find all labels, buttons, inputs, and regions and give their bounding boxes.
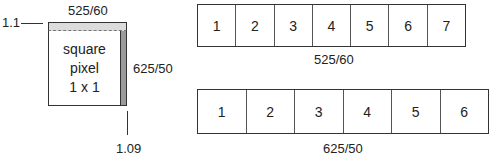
right-extension-band — [121, 31, 127, 106]
cell-6: 6 — [441, 90, 489, 133]
cell-1: 1 — [198, 90, 247, 133]
cell-3: 3 — [275, 5, 313, 46]
text-square: square — [48, 40, 121, 59]
cell-2: 2 — [236, 5, 274, 46]
cell-3: 3 — [295, 90, 344, 133]
cell-7: 7 — [428, 5, 465, 46]
text-pixel: pixel — [48, 59, 121, 78]
row-625-50-label: 625/50 — [323, 141, 363, 156]
cell-4: 4 — [313, 5, 351, 46]
label-625-50-right: 625/50 — [133, 61, 173, 76]
cell-6: 6 — [389, 5, 427, 46]
leader-line-bottom — [127, 111, 128, 135]
cell-2: 2 — [247, 90, 296, 133]
cell-5: 5 — [351, 5, 389, 46]
leader-line-left — [21, 23, 43, 24]
square-pixel-label: square pixel 1 x 1 — [48, 40, 121, 97]
cell-1: 1 — [198, 5, 236, 46]
text-1x1: 1 x 1 — [48, 78, 121, 97]
row-525-60: 1 2 3 4 5 6 7 — [197, 4, 466, 47]
label-1-1: 1.1 — [2, 15, 20, 30]
row-625-50: 1 2 3 4 5 6 — [197, 89, 489, 134]
cell-4: 4 — [344, 90, 393, 133]
label-1-09: 1.09 — [116, 141, 141, 156]
top-extension-band — [48, 22, 127, 31]
label-525-60-top: 525/60 — [68, 3, 108, 18]
cell-5: 5 — [392, 90, 441, 133]
row-525-60-label: 525/60 — [314, 52, 354, 67]
